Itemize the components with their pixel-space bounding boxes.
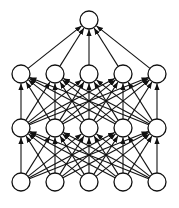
input-neuron-1: [46, 173, 64, 191]
hidden-2-neuron-3: [114, 65, 132, 83]
hidden-2-neuron-4: [148, 65, 166, 83]
neural-network-diagram: [0, 0, 179, 208]
input-neuron-4: [148, 173, 166, 191]
output-neuron-0: [80, 11, 98, 29]
hidden-1-neuron-1: [46, 119, 64, 137]
input-neuron-2: [80, 173, 98, 191]
hidden-1-neuron-4: [148, 119, 166, 137]
input-neuron-3: [114, 173, 132, 191]
connection-edge: [28, 26, 82, 68]
hidden-1-neuron-0: [12, 119, 30, 137]
connections: [21, 26, 157, 179]
hidden-2-neuron-0: [12, 65, 30, 83]
hidden-1-neuron-3: [114, 119, 132, 137]
hidden-2-neuron-1: [46, 65, 64, 83]
hidden-1-neuron-2: [80, 119, 98, 137]
connection-edge: [96, 26, 150, 68]
input-neuron-0: [12, 173, 30, 191]
hidden-2-neuron-2: [80, 65, 98, 83]
